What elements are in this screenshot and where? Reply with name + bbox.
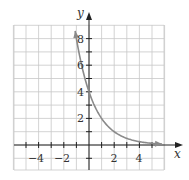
decay-curve: [75, 31, 162, 144]
curve-arrowheads: [73, 31, 162, 147]
exponential-decay-chart: x y −4 −2 2 4 2 4 6 8: [0, 0, 189, 180]
x-tick-label: −4: [28, 152, 44, 165]
y-axis-label: y: [76, 6, 84, 20]
axes: [14, 12, 183, 170]
y-tick-label: 2: [77, 112, 84, 125]
y-tick-label: 8: [77, 33, 84, 46]
x-tick-label: −2: [54, 152, 70, 165]
x-axis-label: x: [174, 147, 181, 161]
x-tick-label: 2: [111, 152, 118, 165]
y-tick-label: 6: [77, 59, 84, 72]
y-tick-label: 4: [77, 86, 84, 99]
x-tick-label: 4: [136, 152, 143, 165]
